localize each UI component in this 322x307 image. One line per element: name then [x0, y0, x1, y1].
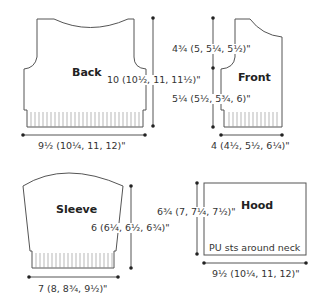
front-title: Front: [238, 72, 271, 83]
hood-title: Hood: [241, 200, 273, 211]
front-lower-height-label: 5¼ (5½, 5¾, 6)": [172, 94, 251, 104]
back-ribbing: [31, 112, 139, 127]
sleeve-width-label: 7 (8, 8¾, 9½)": [38, 284, 107, 294]
back-width-label: 9½ (10¼, 11, 12)": [38, 141, 126, 151]
hood-note-label: PU sts around neck: [209, 243, 300, 253]
front-ribbing: [229, 112, 277, 127]
back-height-label: 10 (10½, 11, 11½)": [107, 75, 201, 85]
hood-width-label: 9½ (10¼, 11, 12)": [212, 269, 300, 279]
back-title: Back: [72, 67, 102, 78]
front-upper-height-label: 4¾ (5, 5¼, 5½)": [172, 44, 251, 54]
hood-height-label: 6¾ (7, 7¼, 7½)": [157, 207, 236, 217]
sleeve-title: Sleeve: [56, 204, 97, 215]
sleeve-ribbing: [36, 253, 112, 268]
sleeve-height-label: 6 (6¼, 6½, 6¾)": [91, 223, 170, 233]
schematic-drawing: [0, 0, 322, 307]
front-width-label: 4 (4½, 5½, 6¼)": [211, 141, 290, 151]
